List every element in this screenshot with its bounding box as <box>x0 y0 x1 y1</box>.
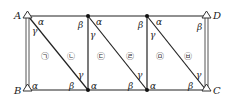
angle-alpha: α <box>150 81 156 91</box>
angle-beta: β <box>127 81 133 91</box>
angle-alpha: α <box>91 81 97 91</box>
angle-beta: β <box>77 20 83 30</box>
support-triangle-A-icon <box>23 11 32 18</box>
joint-bottom-1 <box>86 88 90 92</box>
angle-gamma: γ <box>90 30 96 40</box>
angle-gamma: γ <box>32 26 38 36</box>
point-C-label: C <box>213 85 221 96</box>
angle-gamma: γ <box>196 70 202 80</box>
angle-gamma: γ <box>78 70 84 80</box>
support-triangle-D-icon <box>202 11 211 18</box>
angle-gamma: γ <box>150 30 156 40</box>
angle-beta: β <box>68 81 74 91</box>
angle-beta: β <box>187 81 193 91</box>
angle-alpha: α <box>32 81 38 91</box>
region-label-6: ㉥ <box>184 52 192 61</box>
angle-beta: β <box>196 22 202 32</box>
region-label-5: ㉤ <box>156 52 164 61</box>
point-A-label: A <box>13 10 21 21</box>
point-B-label: B <box>13 85 21 96</box>
joint-bottom-2 <box>145 88 149 92</box>
region-label-2: ㉡ <box>67 52 75 61</box>
angle-alpha: α <box>96 17 102 27</box>
angle-gamma: γ <box>137 70 143 80</box>
joint-top-1 <box>86 14 90 18</box>
support-triangle-B-icon <box>23 84 32 91</box>
angle-alpha: α <box>156 17 162 27</box>
joint-top-2 <box>145 14 149 18</box>
region-label-3: ㉢ <box>97 52 105 61</box>
region-label-1: ㉠ <box>41 52 49 61</box>
angle-beta: β <box>137 20 143 30</box>
truss-diagram: A B C D α γ α γ β β α γ α γ β β α γ α β … <box>0 0 232 105</box>
angle-alpha: α <box>38 17 44 27</box>
point-D-label: D <box>212 10 221 21</box>
region-label-4: ㉣ <box>126 52 134 61</box>
